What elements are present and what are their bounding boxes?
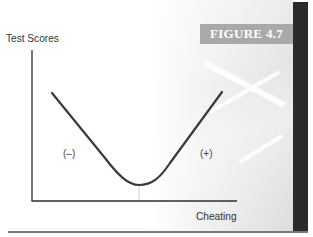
negative-region-label: (–): [63, 148, 75, 159]
plot-area: [0, 0, 313, 237]
positive-region-label: (+): [200, 148, 213, 159]
x-axis-label: Cheating: [196, 210, 237, 222]
bottom-divider: [8, 231, 308, 233]
u-curve: [52, 92, 222, 185]
